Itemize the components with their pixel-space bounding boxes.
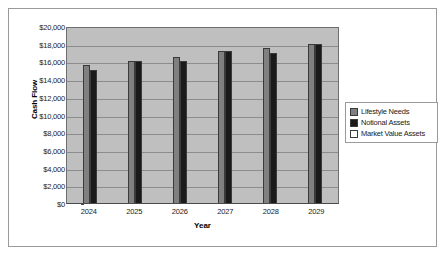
x-axis-title: Year <box>66 221 339 230</box>
legend-swatch-icon <box>350 119 358 127</box>
legend-label: Notional Assets <box>361 118 410 127</box>
chart-frame: Cash Flow $20,000$18,000$16,000$14,000$1… <box>8 8 437 247</box>
bar[interactable] <box>218 51 225 203</box>
legend-item[interactable]: Notional Assets <box>350 117 434 128</box>
bar[interactable] <box>263 48 270 203</box>
bars-layer <box>67 28 338 203</box>
legend-label: Market Value Assets <box>361 129 425 138</box>
y-axis-tick-label: $20,000 <box>39 23 65 32</box>
bar-group <box>248 28 293 203</box>
legend-label: Lifestyle Needs <box>361 107 409 116</box>
bar[interactable] <box>173 57 180 203</box>
y-axis-tick-label: $8,000 <box>43 129 65 138</box>
bar[interactable] <box>83 65 90 203</box>
y-axis-tick-label: $6,000 <box>43 146 65 155</box>
bar[interactable] <box>308 44 315 203</box>
y-axis-tick-labels: $20,000$18,000$16,000$14,000$12,000$10,0… <box>27 19 65 212</box>
y-axis-tick-label: $4,000 <box>43 164 65 173</box>
plot-area <box>66 27 339 204</box>
legend-item[interactable]: Lifestyle Needs <box>350 106 434 117</box>
bar-group <box>67 28 112 203</box>
bar-group <box>293 28 338 203</box>
y-axis-tick-label: $14,000 <box>39 76 65 85</box>
bar[interactable] <box>135 61 142 203</box>
bar[interactable] <box>180 61 187 203</box>
bar[interactable] <box>315 44 322 203</box>
legend-swatch-icon <box>350 130 358 138</box>
y-axis-tick-label: $16,000 <box>39 58 65 67</box>
x-axis-tick-label: 2027 <box>203 207 249 221</box>
legend-item[interactable]: Market Value Assets <box>350 128 434 139</box>
x-axis-tick-label: 2028 <box>248 207 294 221</box>
y-axis-tick-label: $0 <box>57 200 65 209</box>
y-axis-tick-label: $2,000 <box>43 182 65 191</box>
y-axis-tick-label: $12,000 <box>39 93 65 102</box>
x-axis-tick-labels: 202420252026202720282029 <box>66 207 339 221</box>
bar[interactable] <box>90 70 97 203</box>
y-axis-tick-mark <box>81 204 84 205</box>
bar-group <box>203 28 248 203</box>
chart-legend: Lifestyle NeedsNotional AssetsMarket Val… <box>345 102 438 143</box>
bar[interactable] <box>225 51 232 203</box>
legend-swatch-icon <box>350 108 358 116</box>
x-axis-tick-label: 2029 <box>294 207 340 221</box>
x-axis-tick-label: 2024 <box>66 207 112 221</box>
x-axis-tick-label: 2026 <box>157 207 203 221</box>
y-axis-tick-label: $10,000 <box>39 111 65 120</box>
bar-group <box>157 28 202 203</box>
bar[interactable] <box>270 53 277 203</box>
bar[interactable] <box>128 61 135 203</box>
bar-group <box>112 28 157 203</box>
y-axis-tick-label: $18,000 <box>39 40 65 49</box>
x-axis-tick-label: 2025 <box>112 207 158 221</box>
